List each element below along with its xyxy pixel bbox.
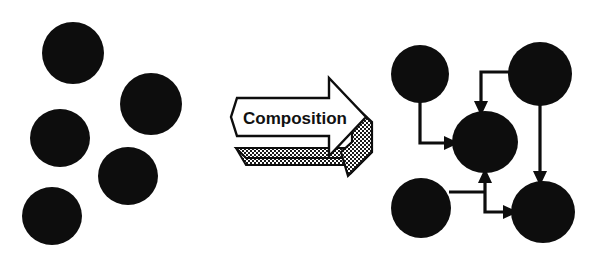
unconnected-node: [98, 147, 158, 205]
figure-canvas: Composition: [0, 0, 600, 262]
unconnected-node: [22, 187, 82, 245]
composition-arrow-label: Composition: [243, 109, 347, 128]
node-center: [452, 111, 518, 173]
composition-figure: Composition: [0, 0, 600, 262]
node-top-right: [508, 42, 572, 106]
unconnected-node: [120, 73, 182, 135]
node-bottom-left: [391, 178, 451, 238]
unconnected-node: [30, 109, 90, 167]
node-bottom-right: [511, 181, 575, 243]
unconnected-node: [42, 22, 104, 84]
arrow-bottom-extrude: [236, 148, 358, 158]
node-top-left: [391, 45, 449, 103]
